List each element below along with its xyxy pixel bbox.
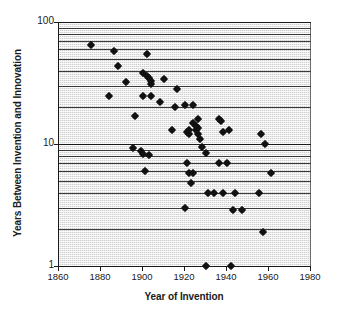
data-point-marker [156, 98, 164, 106]
data-point-marker [227, 262, 235, 270]
gridline [59, 156, 311, 157]
gridline [59, 144, 311, 145]
plot-area [58, 22, 311, 267]
x-tick-mark [310, 267, 311, 271]
x-tick-mark [268, 267, 269, 271]
data-point-marker [202, 262, 210, 270]
gridline [59, 49, 311, 50]
data-point-marker [189, 169, 197, 177]
x-tick-label: 1880 [80, 271, 120, 282]
gridline [59, 86, 311, 87]
gridline [59, 41, 311, 42]
x-tick-mark [142, 267, 143, 271]
gridline [59, 59, 311, 60]
gridline [59, 181, 311, 182]
x-tick-label: 1860 [38, 271, 78, 282]
data-point-marker [160, 75, 168, 83]
data-point-marker [210, 188, 218, 196]
y-tick-label: 1 [20, 259, 54, 270]
data-point-marker [168, 126, 176, 134]
data-point-marker [143, 49, 151, 57]
x-tick-mark [226, 267, 227, 271]
y-tick-mark [54, 144, 58, 145]
data-point-marker [172, 85, 180, 93]
gridline [59, 71, 311, 72]
gridline [59, 229, 311, 230]
data-point-marker [256, 130, 264, 138]
data-point-marker [229, 205, 237, 213]
x-axis-title: Year of Invention [58, 291, 310, 302]
gridline [59, 22, 311, 23]
data-point-marker [114, 61, 122, 69]
data-point-marker [223, 159, 231, 167]
y-tick-label: 100 [20, 15, 54, 26]
gridline [59, 150, 311, 151]
data-point-marker [219, 188, 227, 196]
data-point-marker [145, 150, 153, 158]
data-point-marker [214, 159, 222, 167]
x-tick-label: 1960 [248, 271, 288, 282]
gridline [59, 34, 311, 35]
data-point-marker [261, 140, 269, 148]
gridline [59, 28, 311, 29]
data-point-marker [147, 91, 155, 99]
data-point-marker [141, 167, 149, 175]
scatter-chart-figure: Years Between Invention and Innovation 1… [0, 0, 338, 319]
y-tick-label: 10 [20, 137, 54, 148]
data-point-marker [170, 103, 178, 111]
x-tick-mark [58, 267, 59, 271]
gridline [59, 266, 311, 267]
data-point-marker [231, 188, 239, 196]
data-point-marker [181, 204, 189, 212]
x-tick-label: 1900 [122, 271, 162, 282]
data-point-marker [183, 159, 191, 167]
plot-inner [59, 22, 311, 266]
data-point-marker [237, 205, 245, 213]
x-tick-mark [100, 267, 101, 271]
data-point-marker [105, 91, 113, 99]
y-tick-mark [54, 22, 58, 23]
data-point-marker [254, 188, 262, 196]
x-tick-label: 1940 [206, 271, 246, 282]
y-tick-mark [54, 266, 58, 267]
data-point-marker [267, 169, 275, 177]
x-tick-mark [184, 267, 185, 271]
data-point-marker [109, 47, 117, 55]
x-tick-label: 1920 [164, 271, 204, 282]
gridline [59, 193, 311, 194]
x-tick-label: 1980 [290, 271, 330, 282]
data-point-marker [130, 112, 138, 120]
